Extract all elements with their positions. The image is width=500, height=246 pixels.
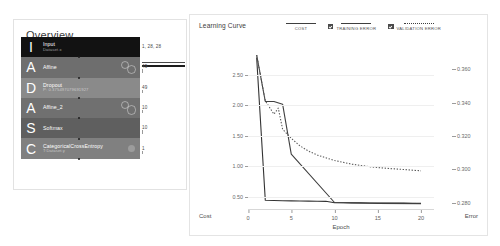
layer-connector-dot xyxy=(78,77,80,79)
layer-initial: A xyxy=(21,60,41,74)
dimension-tick xyxy=(142,130,146,133)
legend-item[interactable]: COST xyxy=(286,23,316,31)
layer-dimension-labels: 1, 28, 28494910101 xyxy=(142,37,186,167)
layer-row[interactable]: IInputDataset.x xyxy=(21,37,140,57)
layer-initial: D xyxy=(21,81,41,95)
legend-line-swatch xyxy=(286,23,316,24)
x-axis-tick: 15 xyxy=(375,215,381,221)
legend-item[interactable]: VALIDATION ERROR xyxy=(388,23,441,31)
gridline xyxy=(248,75,434,76)
layer-row[interactable]: CCategoricalCrossEntropyT:Dataset.y xyxy=(21,138,140,158)
layer-badge-group xyxy=(118,138,140,158)
legend-label: COST xyxy=(295,26,308,31)
gridline xyxy=(248,197,434,198)
layer-name: Affine_2 xyxy=(43,105,118,110)
layer-row[interactable]: SSoftmax xyxy=(21,118,140,138)
gridline xyxy=(248,166,434,167)
y-axis-tick-left: 2.50 xyxy=(233,72,249,78)
layer-badge-group xyxy=(118,118,140,138)
layer-text-group: Softmax xyxy=(41,126,118,131)
checkbox-icon[interactable] xyxy=(388,24,393,29)
chart-curves xyxy=(248,55,434,210)
layer-connector-dot xyxy=(78,138,80,140)
layer-text-group: Affine xyxy=(41,65,118,70)
right-axis-label: Error xyxy=(465,213,478,219)
layer-subtitle: P: 0.375497079691927 xyxy=(43,88,118,92)
legend-label-group: VALIDATION ERROR xyxy=(397,23,442,31)
y-axis-tick-left: 2.00 xyxy=(233,102,249,108)
dimension-rule-top xyxy=(142,62,185,63)
chart-title: Learning Curve xyxy=(199,22,246,29)
network-layer-stack[interactable]: IInputDataset.xAAffineDDropoutP: 0.37549… xyxy=(21,37,140,159)
gridline xyxy=(248,105,434,106)
chart-series-line xyxy=(257,55,421,204)
layer-text-group: CategoricalCrossEntropyT:Dataset.y xyxy=(41,144,118,154)
layer-badge-group xyxy=(118,57,140,77)
legend-label-group: COST xyxy=(286,23,316,31)
gridline xyxy=(248,136,434,137)
dimension-tick xyxy=(142,69,146,72)
y-axis-tick-right: 0.320 xyxy=(434,133,471,139)
circle-icon xyxy=(127,105,137,115)
legend-label: TRAINING ERROR xyxy=(336,26,376,31)
learning-curve-card: Learning Curve COSTTRAINING ERRORVALIDAT… xyxy=(189,14,488,236)
layer-text-group: InputDataset.x xyxy=(41,42,118,52)
x-axis-label: Epoch xyxy=(332,224,349,230)
dimension-tick xyxy=(142,110,146,113)
layer-badge-group xyxy=(118,78,140,98)
legend-label-group: TRAINING ERROR xyxy=(336,23,376,31)
x-axis-tick: 20 xyxy=(418,215,424,221)
layer-row[interactable]: AAffine_2 xyxy=(21,98,140,118)
left-axis-label: Cost xyxy=(199,213,211,219)
layer-dimension: 1, 28, 28 xyxy=(142,44,161,49)
y-axis-tick-right: 0.360 xyxy=(434,66,471,72)
chart-legend[interactable]: COSTTRAINING ERRORVALIDATION ERROR xyxy=(286,23,441,31)
circle-icon xyxy=(127,65,137,75)
layer-initial: C xyxy=(21,142,41,156)
chart-series-line xyxy=(257,55,421,171)
legend-line-swatch xyxy=(341,23,371,24)
y-axis-tick-left: 0.50 xyxy=(233,194,249,200)
layer-subtitle: Dataset.x xyxy=(43,48,118,52)
legend-label: VALIDATION ERROR xyxy=(397,26,442,31)
layer-name: Affine xyxy=(43,65,118,70)
y-axis-tick-right: 0.340 xyxy=(434,100,471,106)
layer-text-group: Affine_2 xyxy=(41,105,118,110)
legend-item[interactable]: TRAINING ERROR xyxy=(328,23,376,31)
circle-icon xyxy=(128,145,135,152)
chart-plot-area: 0.501.001.502.002.500.2800.3000.3200.340… xyxy=(248,55,434,210)
dimension-tick xyxy=(142,151,146,154)
legend-line-swatch xyxy=(404,23,434,24)
chart-series-line xyxy=(257,57,421,203)
layer-initial: S xyxy=(21,121,41,135)
y-axis-tick-right: 0.280 xyxy=(434,200,471,206)
layer-badge-group xyxy=(118,98,140,118)
layer-name: Softmax xyxy=(43,126,118,131)
layer-badge-group xyxy=(118,37,140,57)
layer-initial: A xyxy=(21,101,41,115)
layer-initial: I xyxy=(21,40,41,54)
dimension-rule-bottom xyxy=(142,65,185,67)
checkbox-icon[interactable] xyxy=(328,24,333,29)
y-axis-tick-right: 0.300 xyxy=(434,166,471,172)
x-axis-tick: 5 xyxy=(290,215,293,221)
dimension-tick xyxy=(142,90,146,93)
layer-text-group: DropoutP: 0.375497079691927 xyxy=(41,83,118,93)
x-axis-tick: 0 xyxy=(246,215,249,221)
layer-row[interactable]: AAffine xyxy=(21,57,140,77)
layer-connector-dot xyxy=(78,158,80,160)
y-axis-tick-left: 1.00 xyxy=(233,163,249,169)
layer-row[interactable]: DDropoutP: 0.375497079691927 xyxy=(21,78,140,98)
layer-subtitle: T:Dataset.y xyxy=(43,149,118,153)
y-axis-tick-left: 1.50 xyxy=(233,133,249,139)
x-axis-tick: 10 xyxy=(331,215,337,221)
